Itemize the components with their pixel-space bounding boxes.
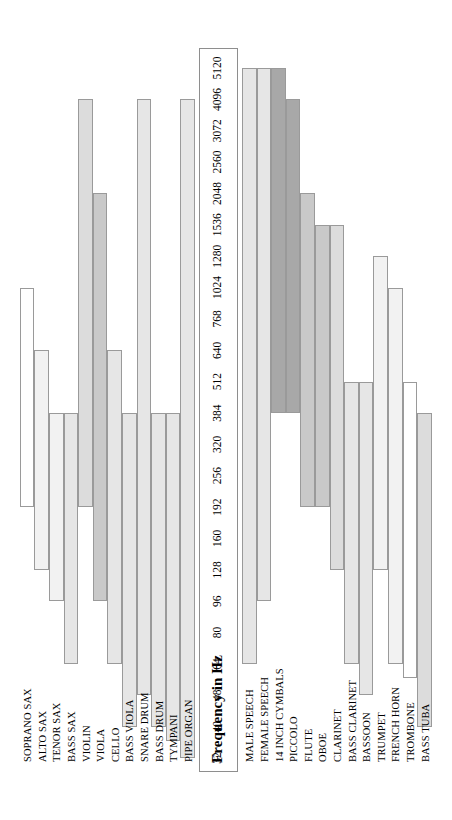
axis-tick: 160	[211, 530, 223, 547]
axis-tick: 128	[211, 561, 223, 578]
range-bar-label: BASS VIOLA	[124, 700, 135, 762]
axis-tick: 192	[211, 498, 223, 515]
range-bar-label: FRENCH HORN	[390, 687, 401, 762]
range-bar	[242, 68, 257, 664]
range-bar-label: MALE SPEECH	[244, 689, 255, 762]
range-bar-label: OBOE	[317, 733, 328, 762]
range-bar-label: SOPRANO SAX	[22, 688, 33, 762]
range-bar	[64, 413, 79, 664]
axis-tick: 512	[211, 373, 223, 390]
plot-area: SOPRANO SAXALTO SAXTENOR SAXBASS SAXVIOL…	[0, 0, 452, 820]
axis-tick: 3072	[211, 119, 223, 142]
range-bar-label: PICCOLO	[288, 716, 299, 762]
range-bar-label: SNARE DRUM	[138, 692, 149, 762]
chart-figure: SOPRANO SAXALTO SAXTENOR SAXBASS SAXVIOL…	[0, 0, 452, 820]
axis-tick: 256	[211, 467, 223, 484]
range-bar	[20, 288, 35, 508]
axis-tick: 1280	[211, 245, 223, 268]
axis-tick: 40	[211, 721, 223, 733]
axis-tick: 4096	[211, 88, 223, 111]
range-bar	[107, 350, 122, 664]
range-bar-label: CELLO	[109, 728, 120, 762]
axis-tick: 320	[211, 436, 223, 453]
axis-tick: 640	[211, 342, 223, 359]
range-bar-label: TRUMPET	[375, 712, 386, 762]
axis-tick: 80	[211, 627, 223, 639]
axis-tick: 32	[211, 752, 223, 764]
range-bar-label: BASS TUBA	[419, 704, 430, 762]
range-bar-label: FLUTE	[302, 729, 313, 762]
frequency-axis: Frequency in Hz 324048648096128160192256…	[199, 48, 238, 772]
axis-tick: 2048	[211, 182, 223, 205]
range-bar	[300, 193, 315, 507]
range-bar	[257, 68, 272, 601]
range-bar-label: TYMPANI	[168, 714, 179, 762]
axis-tick: 48	[211, 690, 223, 702]
range-bar-label: VIOLA	[95, 729, 106, 762]
axis-tick: 2560	[211, 151, 223, 174]
range-bar-label: CLARINET	[331, 709, 342, 762]
range-bar	[180, 99, 195, 758]
range-bar-label: TROMBONE	[404, 702, 415, 762]
axis-tick: 1024	[211, 276, 223, 299]
range-bar	[93, 193, 108, 601]
range-bar	[388, 288, 403, 664]
range-bar-label: BASSOON	[361, 712, 372, 762]
range-bar-label: BASS CLARINET	[346, 680, 357, 762]
range-bar	[151, 413, 166, 727]
range-bar-label: TENOR SAX	[51, 702, 62, 762]
axis-title: Frequency in Hz	[209, 655, 226, 763]
range-bar-label: 14 INCH CYMBALS	[273, 668, 284, 762]
axis-tick: 768	[211, 310, 223, 327]
range-bar	[373, 256, 388, 570]
range-bar	[78, 99, 93, 507]
axis-tick: 64	[211, 658, 223, 670]
range-bar	[286, 99, 301, 413]
range-bar-label: PIPE ORGAN	[182, 699, 193, 762]
axis-tick: 384	[211, 404, 223, 421]
range-bar	[417, 413, 432, 727]
range-bar	[166, 413, 181, 741]
range-bar-label: BASS SAX	[65, 711, 76, 762]
axis-tick: 5120	[211, 57, 223, 80]
axis-tick: 96	[211, 595, 223, 607]
range-bar-label: VIOLIN	[80, 725, 91, 762]
range-bar	[122, 413, 137, 727]
range-bar-label: BASS DRUM	[153, 701, 164, 762]
range-bar	[344, 382, 359, 664]
range-bar-label: ALTO SAX	[36, 711, 47, 762]
axis-tick: 1536	[211, 213, 223, 236]
range-bar-label: FEMALE SPEECH	[258, 677, 269, 762]
range-bar	[137, 99, 152, 695]
range-bar	[403, 382, 418, 679]
range-bar	[49, 413, 64, 601]
range-bar	[315, 225, 330, 507]
range-bar	[330, 225, 345, 570]
range-bar	[34, 350, 49, 570]
range-bar	[271, 68, 286, 413]
range-bar	[359, 382, 374, 696]
